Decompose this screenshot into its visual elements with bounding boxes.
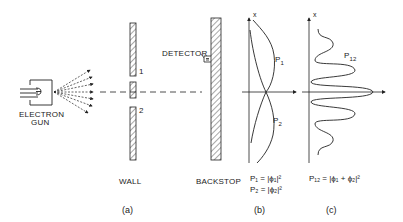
slit-2-label: 2 [139, 107, 144, 115]
curve-p2-sub: 2 [279, 121, 283, 127]
wall [130, 23, 136, 160]
electron-gun-icon [20, 80, 52, 105]
curve-p12-label: P12 [344, 52, 357, 62]
equation-p1: P₁ = |ϕ₁|² [250, 174, 281, 184]
slit-1-label: 1 [139, 68, 144, 76]
caption-b: (b) [254, 205, 265, 215]
backstop-label: BACKSTOP [196, 178, 241, 186]
curve-p1 [251, 20, 275, 143]
axis-c-label: x [313, 11, 317, 18]
axis-b-label: x [253, 11, 257, 18]
panel-c-axes [302, 18, 385, 163]
curve-p2-label: P2 [273, 117, 282, 127]
electron-spray [54, 70, 93, 113]
equation-p12: P₁₂ = |ϕ₁ + ϕ₂|² [309, 174, 360, 184]
backstop [211, 18, 221, 160]
caption-c: (c) [326, 205, 337, 215]
electron-gun-label-2: GUN [31, 119, 49, 127]
caption-a: (a) [122, 205, 133, 215]
equation-p2: P₂ = |ϕ₂|² [250, 185, 282, 195]
curve-p1-label: P1 [275, 56, 284, 66]
curve-p12-sub: 12 [350, 56, 357, 62]
detector-label: DETECTOR [162, 50, 207, 58]
curve-p1-sub: 1 [281, 60, 285, 66]
curve-p2 [250, 30, 274, 163]
wall-label: WALL [119, 178, 141, 186]
